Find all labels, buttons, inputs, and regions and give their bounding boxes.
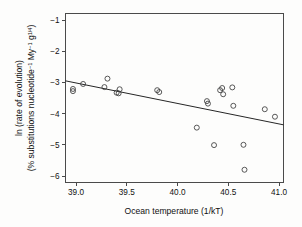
x-axis-title: Ocean temperature (1/kT) [125,206,224,216]
data-point [241,142,246,147]
y-tick-label: −4 [50,110,60,119]
data-points [70,76,277,172]
data-point [221,92,226,97]
data-point [230,85,235,90]
data-point [231,103,236,108]
data-point [194,125,199,130]
x-tick-label: 39.0 [68,188,84,197]
y-tick-label: −2 [50,47,60,56]
chart-canvas: −1−2−3−4−5−6 39.039.540.040.541.0 Ocean … [0,0,302,227]
x-tick-label: 41.0 [271,188,287,197]
x-tick-label: 40.0 [170,188,186,197]
y-tick-label: −3 [50,78,60,87]
y-axis-title-line1: ln (rate of evolution) [14,60,24,136]
x-tick-label: 39.5 [119,188,135,197]
data-point [242,167,247,172]
data-point [272,114,277,119]
y-tick-label: −6 [50,172,60,181]
x-tick-label: 40.5 [220,188,236,197]
data-point [105,76,110,81]
y-axis-ticks: −1−2−3−4−5−6 [50,16,65,181]
y-axis-title-line2: (% substitutions nucleotide−1 My−1 g1/4) [26,25,36,172]
trend-line [66,81,284,125]
y-tick-label: −5 [50,141,60,150]
regression-line [66,81,284,125]
data-point [262,107,267,112]
y-tick-label: −1 [50,16,60,25]
x-axis-ticks: 39.039.540.040.541.0 [68,183,287,198]
data-point [212,143,217,148]
scatter-plot-figure: −1−2−3−4−5−6 39.039.540.040.541.0 Ocean … [0,0,302,227]
axis-frame [66,14,284,183]
